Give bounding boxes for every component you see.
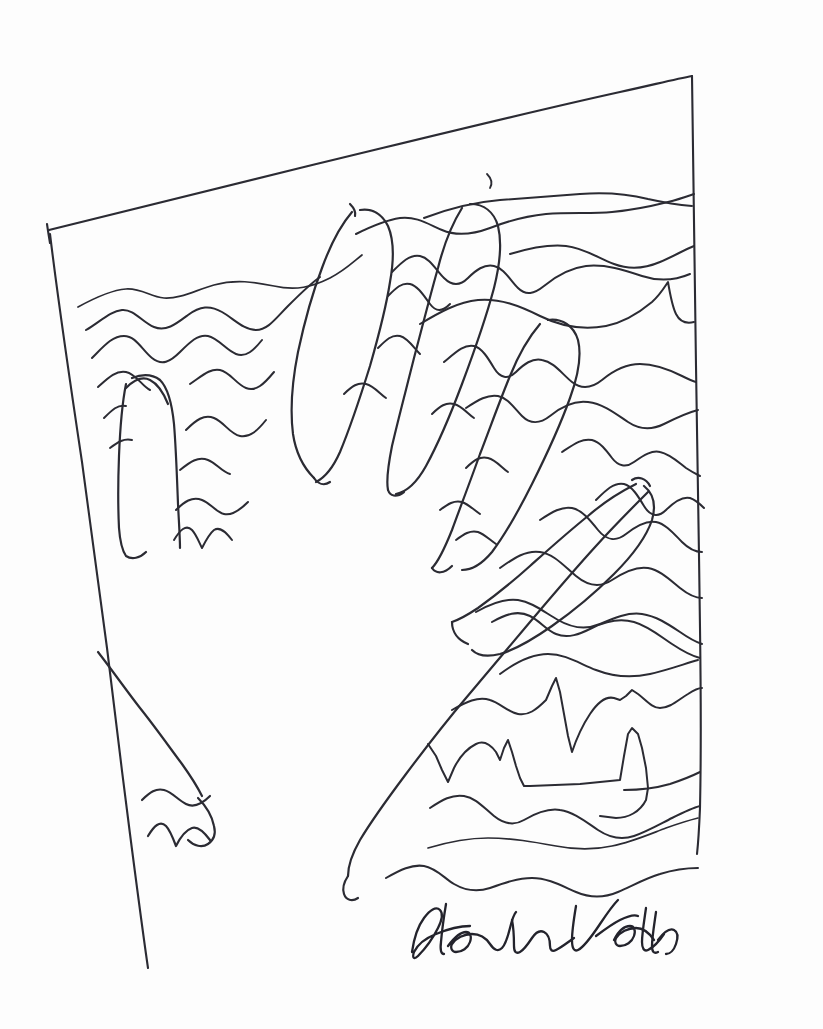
wave-line	[476, 600, 702, 644]
paper-sheet	[47, 76, 701, 968]
drawing-canvas: Hand on Striped Sheet Helen Vendler pen-…	[0, 0, 823, 1029]
signature-helen-vendler	[412, 900, 677, 958]
finger-thumb-outline	[452, 484, 636, 622]
wave-line-jagged	[428, 728, 648, 818]
wave-line	[562, 440, 700, 476]
signature-stroke	[448, 912, 516, 952]
signature-stroke	[658, 929, 677, 954]
hand-wrist-left-edge	[98, 652, 202, 796]
wave-line	[176, 499, 248, 515]
wave-line	[78, 255, 362, 307]
wave-line	[500, 654, 698, 676]
wave-line	[624, 772, 700, 790]
hand-silhouette	[98, 204, 654, 900]
finger-pinky-outline	[118, 384, 146, 558]
hand-wrist-notch	[148, 824, 210, 846]
finger-ring-outline	[292, 212, 352, 478]
finger-middle-tip	[388, 490, 404, 496]
finger-pinky-outline	[132, 375, 180, 548]
wave-line	[466, 457, 508, 472]
wave-lines-upper-right	[356, 174, 698, 428]
sheet-right-edge	[692, 76, 701, 854]
wave-line	[180, 459, 230, 474]
wave-line-jagged	[452, 678, 702, 752]
wave-line	[596, 484, 704, 515]
wave-line	[492, 613, 700, 658]
hand-wrist-bottom-edge	[343, 876, 358, 900]
wave-line	[386, 866, 698, 897]
signature-stroke	[512, 920, 574, 953]
finger-middle-outline	[396, 204, 500, 494]
wave-line	[110, 439, 132, 448]
wave-line	[190, 370, 274, 389]
wave-lines-lower-right	[386, 613, 702, 896]
wave-line	[344, 383, 386, 398]
wave-line	[388, 284, 450, 310]
wave-line	[86, 277, 320, 330]
wave-line	[92, 336, 262, 363]
finger-index-outline	[432, 324, 540, 568]
wave-line	[428, 818, 698, 849]
wave-line	[378, 336, 420, 354]
wave-line	[500, 552, 702, 598]
wave-line	[456, 531, 496, 544]
sheet-left-edge	[50, 234, 148, 968]
wave-line	[356, 194, 694, 234]
wave-lines-upper-left	[78, 255, 362, 548]
hand-drawing-svg	[0, 0, 823, 1029]
signature-stroke	[652, 912, 658, 953]
wave-line	[174, 528, 232, 548]
wave-line	[540, 508, 702, 552]
wave-line	[510, 245, 694, 267]
finger-index-tip	[432, 566, 452, 572]
finger-thumb-tip	[452, 622, 468, 644]
sheet-top-edge	[49, 76, 692, 230]
wave-line	[186, 417, 266, 437]
wave-line	[444, 346, 696, 387]
finger-middle-outline	[387, 208, 462, 490]
signature-stroke	[614, 926, 654, 946]
comma-tick-mark	[487, 174, 491, 188]
wave-line	[430, 796, 700, 838]
